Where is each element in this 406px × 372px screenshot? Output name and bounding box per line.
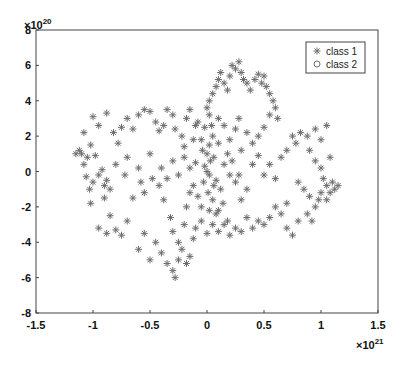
asterisk-marker-icon xyxy=(263,83,270,90)
asterisk-marker-icon xyxy=(152,119,159,126)
asterisk-marker-icon xyxy=(235,58,242,65)
asterisk-marker-icon xyxy=(224,218,231,225)
asterisk-marker-icon xyxy=(83,173,90,180)
y-tick-label: -4 xyxy=(21,236,32,248)
asterisk-marker-icon xyxy=(243,80,250,87)
asterisk-marker-icon xyxy=(206,172,213,179)
asterisk-marker-icon xyxy=(103,110,110,117)
asterisk-marker-icon xyxy=(318,189,325,196)
asterisk-marker-icon xyxy=(149,175,156,182)
asterisk-marker-icon xyxy=(205,189,212,196)
asterisk-marker-icon xyxy=(318,165,325,172)
asterisk-marker-icon xyxy=(152,239,159,246)
asterisk-marker-icon xyxy=(84,154,91,161)
asterisk-marker-icon xyxy=(178,246,185,253)
asterisk-marker-icon xyxy=(107,212,114,219)
asterisk-marker-icon xyxy=(255,218,262,225)
asterisk-marker-icon xyxy=(209,90,216,97)
asterisk-marker-icon xyxy=(198,218,205,225)
asterisk-marker-icon xyxy=(261,221,268,228)
asterisk-marker-icon xyxy=(272,203,279,210)
asterisk-marker-icon xyxy=(206,97,213,104)
asterisk-marker-icon xyxy=(190,136,197,143)
asterisk-marker-icon xyxy=(300,186,307,193)
asterisk-marker-icon xyxy=(199,147,206,154)
asterisk-marker-icon xyxy=(183,115,190,122)
asterisk-marker-icon xyxy=(323,182,330,189)
asterisk-marker-icon xyxy=(243,186,250,193)
asterisk-marker-icon xyxy=(124,154,131,161)
asterisk-marker-icon xyxy=(86,186,93,193)
asterisk-marker-icon xyxy=(258,80,265,87)
asterisk-marker-icon xyxy=(95,122,102,129)
asterisk-marker-icon xyxy=(213,83,220,90)
asterisk-marker-icon xyxy=(278,154,285,161)
asterisk-marker-icon xyxy=(95,172,102,179)
asterisk-marker-icon xyxy=(249,225,256,232)
asterisk-marker-icon xyxy=(147,108,154,115)
asterisk-marker-icon xyxy=(238,147,245,154)
asterisk-marker-icon xyxy=(181,221,188,228)
y-tick-label: 0 xyxy=(25,166,31,178)
asterisk-marker-icon xyxy=(175,256,182,263)
asterisk-marker-icon xyxy=(238,228,245,235)
asterisk-marker-icon xyxy=(255,152,262,159)
asterisk-marker-icon xyxy=(87,142,94,149)
x-tick-label: -1 xyxy=(88,319,98,331)
legend-label-class-1: class 1 xyxy=(326,46,358,57)
asterisk-marker-icon xyxy=(217,69,224,76)
asterisk-marker-icon xyxy=(107,186,114,193)
asterisk-marker-icon xyxy=(124,218,131,225)
asterisk-marker-icon xyxy=(103,230,110,237)
asterisk-marker-icon xyxy=(217,186,224,193)
asterisk-marker-icon xyxy=(329,179,336,186)
asterisk-marker-icon xyxy=(135,111,142,118)
asterisk-marker-icon xyxy=(215,228,222,235)
asterisk-marker-icon xyxy=(190,235,197,242)
asterisk-marker-icon xyxy=(229,157,236,164)
asterisk-marker-icon xyxy=(243,129,250,136)
asterisk-marker-icon xyxy=(141,106,148,113)
legend-asterisk-icon xyxy=(314,48,321,55)
scatter-chart: -1.5-1-0.500.511.5 86420-2-4-6-8 ×1020 ×… xyxy=(0,0,406,372)
asterisk-marker-icon xyxy=(238,196,245,203)
asterisk-marker-icon xyxy=(312,126,319,133)
asterisk-marker-icon xyxy=(226,73,233,80)
asterisk-marker-icon xyxy=(292,140,299,147)
asterisk-marker-icon xyxy=(141,230,148,237)
asterisk-marker-icon xyxy=(232,65,239,72)
asterisk-marker-icon xyxy=(278,210,285,217)
asterisk-marker-icon xyxy=(198,203,205,210)
asterisk-marker-icon xyxy=(169,111,176,118)
asterisk-marker-icon xyxy=(210,154,217,161)
asterisk-marker-icon xyxy=(249,161,256,168)
asterisk-marker-icon xyxy=(198,136,205,143)
asterisk-marker-icon xyxy=(320,175,327,182)
asterisk-marker-icon xyxy=(101,182,108,189)
asterisk-marker-icon xyxy=(118,232,125,239)
asterisk-marker-icon xyxy=(164,260,171,267)
asterisk-marker-icon xyxy=(323,196,330,203)
x-tick-label: -0.5 xyxy=(141,319,160,331)
asterisk-marker-icon xyxy=(158,249,165,256)
x-tick-label: 1 xyxy=(318,319,324,331)
y-exponent-label: ×1020 xyxy=(24,17,52,31)
asterisk-marker-icon xyxy=(141,189,148,196)
asterisk-marker-icon xyxy=(312,157,319,164)
asterisk-marker-icon xyxy=(238,69,245,76)
asterisk-marker-icon xyxy=(226,232,233,239)
asterisk-marker-icon xyxy=(232,225,239,232)
asterisk-marker-icon xyxy=(327,154,334,161)
asterisk-marker-icon xyxy=(147,256,154,263)
asterisk-marker-icon xyxy=(308,218,315,225)
asterisk-marker-icon xyxy=(208,122,215,129)
asterisk-marker-icon xyxy=(249,140,256,147)
asterisk-marker-icon xyxy=(226,172,233,179)
asterisk-marker-icon xyxy=(315,196,322,203)
asterisk-marker-icon xyxy=(194,119,201,126)
y-tick-label: 2 xyxy=(25,130,31,142)
legend: class 1 class 2 xyxy=(306,42,365,73)
asterisk-marker-icon xyxy=(206,207,213,214)
asterisk-marker-icon xyxy=(80,129,87,136)
asterisk-marker-icon xyxy=(164,175,171,182)
